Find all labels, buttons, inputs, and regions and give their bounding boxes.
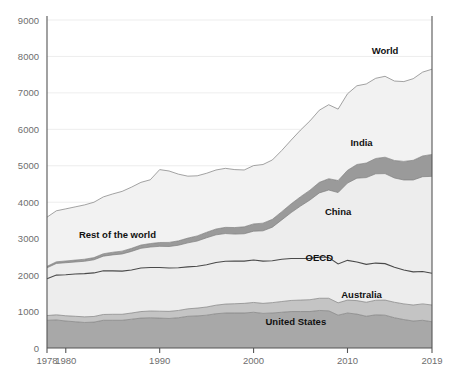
chart-container: 0100020003000400050006000700080009000 19… xyxy=(0,0,450,379)
x-tick-label-1980: 1980 xyxy=(55,355,76,366)
series-label-india: India xyxy=(350,137,373,148)
x-tick-label-1990: 1990 xyxy=(149,355,170,366)
x-tick-label-2010: 2010 xyxy=(337,355,358,366)
y-tick-label-2000: 2000 xyxy=(18,270,39,281)
y-tick-label-3000: 3000 xyxy=(18,233,39,244)
series-label-oecd: OECD xyxy=(306,252,334,263)
y-tick-label-4000: 4000 xyxy=(18,197,39,208)
series-label-australia: Australia xyxy=(341,289,382,300)
x-tick-label-2000: 2000 xyxy=(243,355,264,366)
y-tick-label-7000: 7000 xyxy=(18,87,39,98)
y-tick-label-6000: 6000 xyxy=(18,124,39,135)
y-tick-label-8000: 8000 xyxy=(18,51,39,62)
y-tick-label-5000: 5000 xyxy=(18,160,39,171)
y-tick-label-0: 0 xyxy=(34,343,39,354)
series-label-china: China xyxy=(325,206,352,217)
series-label-united-states: United States xyxy=(265,316,326,327)
y-tick-label-9000: 9000 xyxy=(18,15,39,26)
y-tick-label-1000: 1000 xyxy=(18,306,39,317)
series-label-rest-of-the-world: Rest of the world xyxy=(79,229,156,240)
series-label-world: World xyxy=(372,45,399,56)
stacked-area-chart: 0100020003000400050006000700080009000 19… xyxy=(0,0,450,379)
x-tick-label-2019: 2019 xyxy=(421,355,442,366)
